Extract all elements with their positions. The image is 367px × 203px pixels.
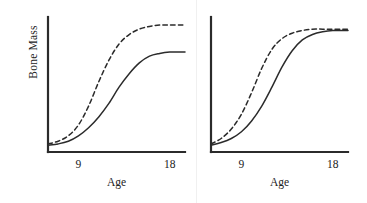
plot-area-right — [196, 0, 367, 203]
y-axis-label-left: Bone Mass — [27, 7, 39, 97]
solid-curve-left — [48, 52, 185, 145]
x-axis-label-right: Age — [240, 176, 320, 188]
dashed-curve-right — [211, 29, 348, 144]
x-axis-label-left: Age — [77, 176, 157, 188]
x-tick-label-18-right: 18 — [313, 158, 353, 170]
chart-panel-right: 9 18 Age — [196, 0, 367, 203]
x-tick-label-9-left: 9 — [58, 158, 98, 170]
x-tick-label-9-right: 9 — [221, 158, 261, 170]
figure-root: Bone Mass 9 18 Age 9 18 Age — [0, 0, 367, 203]
dashed-curve-left — [48, 25, 185, 144]
x-tick-label-18-left: 18 — [150, 158, 190, 170]
chart-panel-left: Bone Mass 9 18 Age — [0, 0, 196, 203]
